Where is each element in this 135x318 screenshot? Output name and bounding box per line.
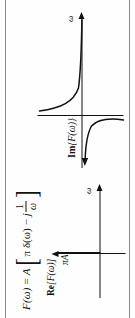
figure-frame: F(ω) = A [ π δ(ω) − j 1 ω ] (5, 0, 130, 318)
equation-fraction: 1 ω (14, 201, 37, 212)
re-function-label: Re[F(ω)] (45, 259, 55, 296)
im-function-label-body: {F(ω)} (65, 118, 76, 146)
rotated-figure-stage: F(ω) = A [ π δ(ω) − j 1 ω ] (5, 0, 130, 318)
fraction-bar (25, 201, 26, 212)
re-impulse-arrowhead (51, 251, 58, 257)
real-part-plot: ω πA Re[F(ω)] (47, 180, 125, 298)
re-omega-axis-arrowhead (96, 184, 102, 191)
equation-imaginary-unit: j (19, 213, 31, 216)
equation-term-delta: π δ(ω) (19, 228, 31, 256)
bracket-open: [ (13, 259, 37, 267)
equation-operator: − (19, 219, 31, 225)
im-function-label: Im{F(ω)} (65, 118, 76, 158)
fraction-numerator: 1 (14, 202, 24, 211)
bracket-close: ] (13, 190, 37, 198)
re-function-label-body: [F(ω)] (45, 259, 55, 285)
equation-equals: = (19, 278, 31, 284)
re-omega-axis-label: ω (82, 188, 92, 194)
re-omega-axis (99, 190, 100, 298)
im-curve-left-arrowhead (35, 8, 127, 168)
fourier-transform-equation: F(ω) = A [ π δ(ω) − j 1 ω ] (13, 188, 37, 310)
equation-amplitude: A (19, 268, 31, 275)
imaginary-part-plot: ω Im{F(ω)} (35, 8, 127, 168)
fraction-denominator: ω (27, 201, 37, 212)
im-function-label-prefix: Im (65, 146, 76, 158)
equation-lhs: F(ω) (19, 287, 31, 310)
figure-content: F(ω) = A [ π δ(ω) − j 1 ω ] (5, 0, 130, 318)
re-impulse-label: πA (59, 254, 69, 265)
re-function-label-prefix: Re (45, 285, 55, 296)
